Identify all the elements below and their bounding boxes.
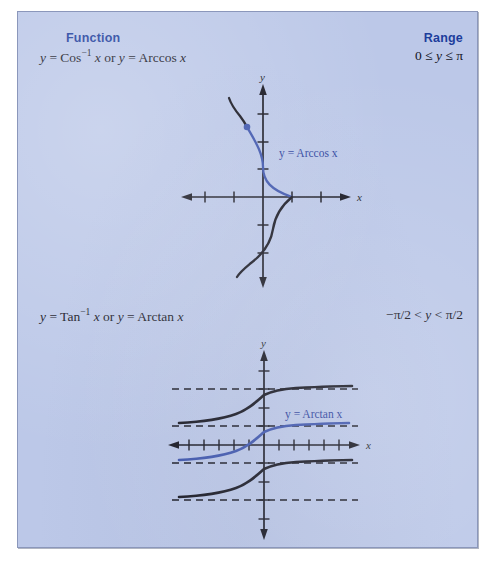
y-axis-label-arctan: y: [260, 337, 266, 349]
graph-arccos-canvas: y x y = Arccos x: [151, 78, 381, 293]
graph-arccos: y x y = Arccos x: [151, 78, 381, 293]
graph-arctan-canvas: y x y = Arctan x: [144, 342, 394, 547]
formula-arctan: y = Tan−1 x or y = Arctan x: [40, 307, 183, 325]
range-arctan: −π/2 < y < π/2: [386, 307, 463, 323]
graph-arctan: y x y = Arctan x: [144, 342, 394, 547]
reference-panel: Function Range y = Cos−1 x or y = Arccos…: [17, 11, 478, 548]
curve-arctan-lower-branch: [179, 460, 352, 497]
x-axis-label-arctan: x: [365, 439, 371, 451]
y-axis-label-arccos: y: [259, 71, 265, 83]
curve-arccos-upper-branch: [229, 98, 247, 127]
x-axis-arccos: [181, 193, 351, 201]
curve-arccos-principal: [247, 127, 292, 197]
curve-arccos-lower-branch: [237, 197, 292, 277]
page-root: Function Range y = Cos−1 x or y = Arccos…: [0, 0, 495, 565]
column-header-range: Range: [424, 31, 463, 45]
range-arccos: 0 ≤ y ≤ π: [415, 48, 463, 64]
formula-arccos: y = Cos−1 x or y = Arccos x: [40, 48, 186, 66]
curve-label-arccos: y = Arccos x: [279, 147, 338, 160]
column-header-function: Function: [66, 31, 120, 45]
x-axis-label-arccos: x: [356, 191, 362, 203]
curve-label-arctan: y = Arctan x: [285, 408, 343, 421]
branch-endpoint-dot: [244, 124, 251, 131]
